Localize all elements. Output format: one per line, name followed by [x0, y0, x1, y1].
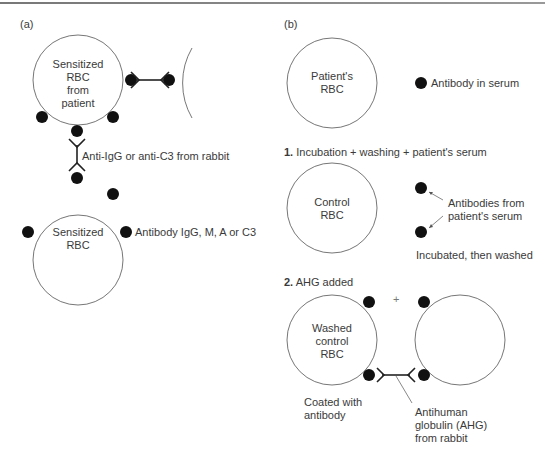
plus-sign: + [393, 293, 399, 306]
coated-line1: Coated with [304, 396, 362, 409]
coated-label: Coated with antibody [304, 396, 362, 422]
ahg-line3: from rabbit [415, 432, 487, 445]
washed-rbc-line3: RBC [302, 348, 362, 361]
top-rbc-line1: Sensitized [48, 58, 108, 71]
antibodies-from-line2: patient's serum [448, 210, 524, 223]
step1-label: 1. Incubation + washing + patient's seru… [284, 146, 487, 159]
coated-line2: antibody [304, 409, 362, 422]
antibodies-from-line1: Antibodies from [448, 197, 524, 210]
patient-rbc-line1: Patient's [302, 70, 362, 83]
antibody-serum-label: Antibody in serum [431, 77, 519, 90]
step2-text: AHG added [296, 276, 353, 288]
antibodies-from-label: Antibodies from patient's serum [448, 197, 524, 223]
panel-a-label: (a) [20, 18, 33, 31]
washed-rbc-line1: Washed [302, 322, 362, 335]
ahg-line2: globulin (AHG) [415, 419, 487, 432]
step1-number: 1. [284, 146, 293, 158]
washed-rbc-line2: control [302, 335, 362, 348]
panel-b-label: (b) [284, 18, 297, 31]
top-rbc-line3: from [48, 84, 108, 97]
incubated-label: Incubated, then washed [416, 249, 533, 262]
washed-rbc-label: Washed control RBC [302, 322, 362, 361]
ahg-label: Antihuman globulin (AHG) from rabbit [415, 406, 487, 445]
step2-number: 2. [284, 276, 293, 288]
top-rbc-line4: patient [48, 97, 108, 110]
control-rbc-line1: Control [302, 196, 362, 209]
control-rbc-label: Control RBC [302, 196, 362, 222]
antibody-types-label: Antibody IgG, M, A or C3 [135, 226, 256, 239]
top-rbc-line2: RBC [48, 71, 108, 84]
anti-igg-label: Anti-IgG or anti-C3 from rabbit [82, 150, 229, 163]
rbc-partial-circle [183, 48, 192, 118]
bottom-rbc-line1: Sensitized [48, 226, 108, 239]
step2-label: 2. AHG added [284, 276, 353, 289]
patient-rbc-line2: RBC [302, 83, 362, 96]
bottom-rbc-line2: RBC [48, 239, 108, 252]
patient-rbc-label: Patient's RBC [302, 70, 362, 96]
ahg-line1: Antihuman [415, 406, 487, 419]
step1-text: Incubation + washing + patient's serum [296, 146, 486, 158]
control-rbc-line2: RBC [302, 209, 362, 222]
top-rbc-label: Sensitized RBC from patient [48, 58, 108, 110]
bottom-rbc-label: Sensitized RBC [48, 226, 108, 252]
